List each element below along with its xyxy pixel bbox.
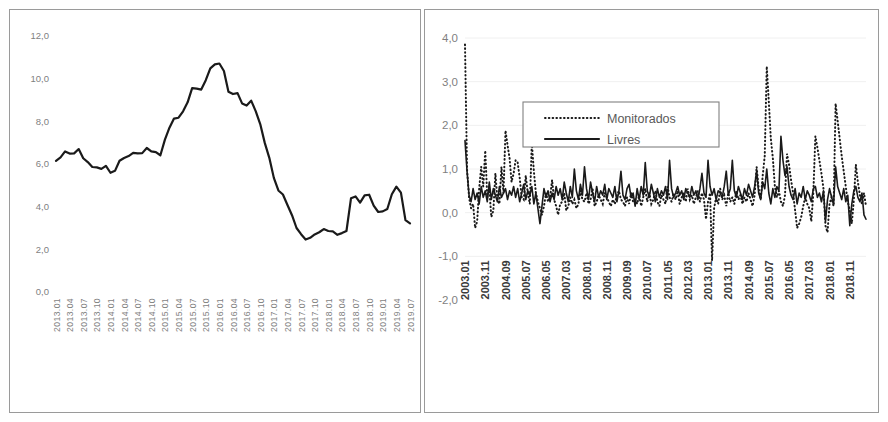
left-x-tick-label: 2018.10 bbox=[365, 298, 375, 332]
right-x-tick-label: 2013.01 bbox=[702, 260, 714, 300]
left-x-tick-label: 2018.04 bbox=[337, 298, 347, 332]
right-x-tick-label: 2005.07 bbox=[520, 260, 532, 300]
right-x-tick-label: 2008.01 bbox=[581, 260, 593, 300]
right-y-tick-label: -2,0 bbox=[438, 294, 458, 306]
figure-container: 0,02,04,06,08,010,012,02013.012013.04201… bbox=[0, 0, 888, 422]
left-x-tick-label: 2016.01 bbox=[215, 298, 225, 332]
right-x-tick-label: 2016.05 bbox=[783, 260, 795, 300]
left-x-tick-label: 2013.10 bbox=[92, 298, 102, 332]
right-x-tick-label: 2014.09 bbox=[743, 260, 755, 300]
left-x-tick-label: 2016.10 bbox=[256, 298, 266, 332]
left-x-tick-label: 2013.01 bbox=[52, 298, 62, 332]
right-x-tick-label: 2015.07 bbox=[763, 260, 775, 300]
left-x-tick-label: 2015.07 bbox=[188, 298, 198, 332]
right-x-tick-label: 2013.11 bbox=[722, 260, 734, 299]
right-x-tick-label: 2011.05 bbox=[662, 260, 674, 299]
left-x-tick-label: 2015.04 bbox=[174, 298, 184, 332]
right-x-tick-label: 2017.03 bbox=[803, 260, 815, 300]
right-x-tick-label: 2009.09 bbox=[621, 260, 633, 300]
right-x-tick-label: 2008.11 bbox=[601, 260, 613, 299]
left-x-tick-label: 2016.04 bbox=[229, 298, 239, 332]
left-x-tick-label: 2019.07 bbox=[406, 298, 416, 332]
right-y-tick-label: 1,0 bbox=[442, 163, 458, 175]
right-y-tick-label: 4,0 bbox=[442, 32, 458, 44]
left-x-tick-label: 2015.01 bbox=[160, 298, 170, 332]
left-x-tick-label: 2018.01 bbox=[324, 298, 334, 332]
left-y-tick-label: 8,0 bbox=[36, 116, 49, 127]
left-x-tick-label: 2013.07 bbox=[79, 298, 89, 332]
right-x-tick-label: 2018.11 bbox=[844, 260, 856, 299]
left-x-tick-label: 2013.04 bbox=[65, 298, 75, 332]
right-y-tick-label: 0,0 bbox=[442, 207, 458, 219]
right-x-tick-label: 2007.03 bbox=[560, 260, 572, 300]
right-x-tick-label: 2010.07 bbox=[641, 260, 653, 300]
left-x-tick-label: 2014.04 bbox=[120, 298, 130, 332]
left-x-tick-label: 2015.10 bbox=[201, 298, 211, 332]
left-y-tick-label: 0,0 bbox=[36, 286, 49, 297]
left-x-tick-label: 2017.10 bbox=[310, 298, 320, 332]
legend-label-monitorados: Monitorados bbox=[607, 112, 676, 126]
right-y-tick-label: 3,0 bbox=[442, 76, 458, 88]
left-y-tick-label: 4,0 bbox=[36, 201, 49, 212]
left-x-tick-label: 2019.04 bbox=[392, 298, 402, 332]
right-x-tick-label: 2004.09 bbox=[500, 260, 512, 300]
left-y-tick-label: 2,0 bbox=[36, 244, 49, 255]
left-x-tick-label: 2019.01 bbox=[378, 298, 388, 332]
left-y-tick-label: 12,0 bbox=[31, 30, 50, 41]
right-x-tick-label: 2003.01 bbox=[459, 260, 471, 300]
right-chart-svg: -2,0-1,00,01,02,03,04,02003.012003.11200… bbox=[425, 10, 878, 412]
left-chart-panel: 0,02,04,06,08,010,012,02013.012013.04201… bbox=[9, 9, 421, 413]
left-y-tick-label: 10,0 bbox=[31, 73, 50, 84]
legend-label-livres: Livres bbox=[607, 133, 640, 147]
left-x-tick-label: 2017.04 bbox=[283, 298, 293, 332]
right-y-tick-label: 2,0 bbox=[442, 119, 458, 131]
right-chart-panel: -2,0-1,00,01,02,03,04,02003.012003.11200… bbox=[424, 9, 879, 413]
left-x-tick-label: 2018.07 bbox=[351, 298, 361, 332]
left-x-tick-label: 2014.07 bbox=[133, 298, 143, 332]
right-x-tick-label: 2018.01 bbox=[824, 260, 836, 300]
right-x-tick-label: 2006.05 bbox=[540, 260, 552, 300]
left-series-line bbox=[56, 64, 410, 240]
left-x-tick-label: 2017.01 bbox=[269, 298, 279, 332]
right-y-tick-label: -1,0 bbox=[438, 250, 458, 262]
left-x-tick-label: 2014.01 bbox=[106, 298, 116, 332]
left-x-tick-label: 2017.07 bbox=[297, 298, 307, 332]
left-x-tick-label: 2016.07 bbox=[242, 298, 252, 332]
right-x-tick-label: 2003.11 bbox=[479, 260, 491, 299]
right-x-tick-label: 2012.03 bbox=[682, 260, 694, 300]
right-series-monitorados bbox=[465, 45, 866, 261]
left-y-tick-label: 6,0 bbox=[36, 158, 49, 169]
left-chart-svg: 0,02,04,06,08,010,012,02013.012013.04201… bbox=[10, 10, 420, 412]
left-x-tick-label: 2014.10 bbox=[147, 298, 157, 332]
